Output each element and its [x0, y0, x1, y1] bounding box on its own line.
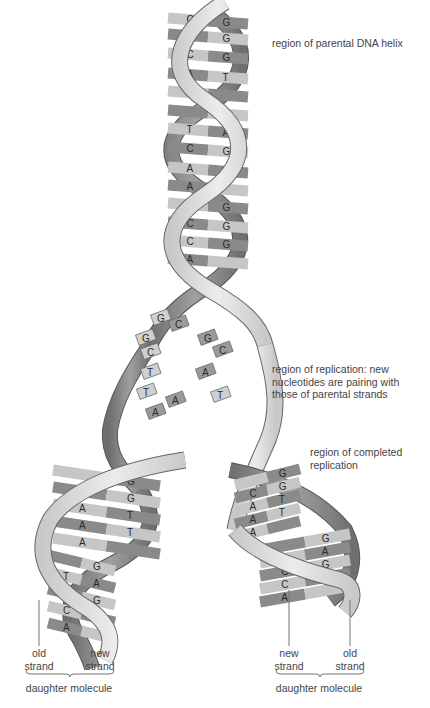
label-line: strand	[75, 660, 125, 673]
label-line: region of replication: new	[272, 363, 399, 376]
nucleotide-base: A	[281, 592, 288, 603]
label-line: new	[264, 647, 314, 660]
label-line: nucleotides are pairing with	[272, 376, 399, 389]
nucleotide-base: G	[204, 333, 212, 344]
nucleotide-base: G	[223, 221, 231, 232]
label-line: those of parental strands	[272, 388, 399, 401]
nucleotide-base: T	[279, 507, 285, 518]
nucleotide-base: G	[157, 313, 165, 324]
nucleotide-base: G	[279, 481, 287, 492]
dna-replication-diagram: CGCGCGATAGTACGATAGCGCGA GCGGCCTATATA GCG…	[0, 0, 430, 708]
left-old-strand-label: old strand	[14, 647, 64, 672]
nucleotide-base: T	[279, 494, 285, 505]
nucleotide-base: A	[322, 546, 329, 557]
nucleotide-base: T	[187, 124, 193, 135]
nucleotide-base: A	[249, 501, 256, 512]
nucleotide-base: G	[223, 52, 231, 63]
label-line: strand	[264, 660, 314, 673]
nucleotide-base: A	[79, 520, 86, 531]
nucleotide-base: C	[147, 347, 154, 358]
left-new-strand-label: new strand	[75, 647, 125, 672]
label-line: strand	[325, 660, 375, 673]
label-completed-replication: region of completed replication	[310, 446, 402, 471]
nucleotide-base: G	[223, 33, 231, 44]
nucleotide-base: A	[93, 578, 100, 589]
nucleotide-base: T	[147, 367, 153, 378]
nucleotide-base: G	[93, 561, 101, 572]
nucleotide-base: G	[279, 468, 287, 479]
nucleotide-base: G	[142, 333, 150, 344]
left-daughter-helix: GCGATATAGTACGCGA	[43, 460, 185, 668]
right-daughter-helix: GCGATATAGTACGCGA	[230, 468, 352, 612]
free-nucleotide: T	[210, 386, 231, 402]
nucleotide-base: A	[249, 514, 256, 525]
nucleotide-base: C	[187, 143, 194, 154]
label-line: new	[75, 647, 125, 660]
nucleotide-base: A	[79, 503, 86, 514]
nucleotide-base: C	[219, 345, 226, 356]
free-nucleotide: A	[145, 403, 166, 419]
nucleotide-base: G	[223, 239, 231, 250]
free-nucleotide: G	[197, 329, 218, 345]
free-nucleotides: GCGGCCTATATA	[135, 309, 233, 419]
nucleotide-base: A	[202, 367, 209, 378]
nucleotide-base: T	[127, 510, 133, 521]
nucleotide-base: C	[187, 236, 194, 247]
free-nucleotide: A	[165, 391, 186, 407]
nucleotide-base: T	[223, 72, 229, 83]
nucleotide-base: G	[322, 533, 330, 544]
nucleotide-base: A	[187, 163, 194, 174]
free-nucleotide: C	[212, 341, 233, 357]
nucleotide-base: C	[249, 488, 256, 499]
parental-helix: CGCGCGATAGTACGATAGCGCGA	[150, 2, 265, 345]
free-nucleotide: T	[136, 383, 157, 399]
nucleotide-base: A	[187, 181, 194, 192]
label-line: region of completed	[310, 446, 402, 459]
label-line: replication	[310, 459, 402, 472]
nucleotide-base: T	[143, 387, 149, 398]
label-line: old	[14, 647, 64, 660]
nucleotide-base: C	[175, 319, 182, 330]
nucleotide-base: A	[172, 395, 179, 406]
nucleotide-base: C	[281, 579, 288, 590]
nucleotide-base: A	[152, 407, 159, 418]
left-daughter-molecule-label: daughter molecule	[14, 682, 124, 694]
nucleotide-base: C	[63, 605, 70, 616]
right-daughter-molecule-label: daughter molecule	[264, 682, 374, 694]
label-line: strand	[14, 660, 64, 673]
nucleotide-base: T	[217, 390, 223, 401]
label-parental-helix: region of parental DNA helix	[272, 37, 403, 50]
nucleotide-base: G	[223, 202, 231, 213]
label-line: old	[325, 647, 375, 660]
label-replication-region: region of replication: new nucleotides a…	[272, 363, 399, 401]
free-nucleotide: A	[195, 363, 216, 379]
nucleotide-base: A	[63, 622, 70, 633]
right-new-strand-label: new strand	[264, 647, 314, 672]
nucleotide-base: A	[79, 537, 86, 548]
nucleotide-base: T	[127, 527, 133, 538]
nucleotide-base: G	[223, 17, 231, 28]
nucleotide-base: G	[127, 493, 135, 504]
right-old-strand-label: old strand	[325, 647, 375, 672]
